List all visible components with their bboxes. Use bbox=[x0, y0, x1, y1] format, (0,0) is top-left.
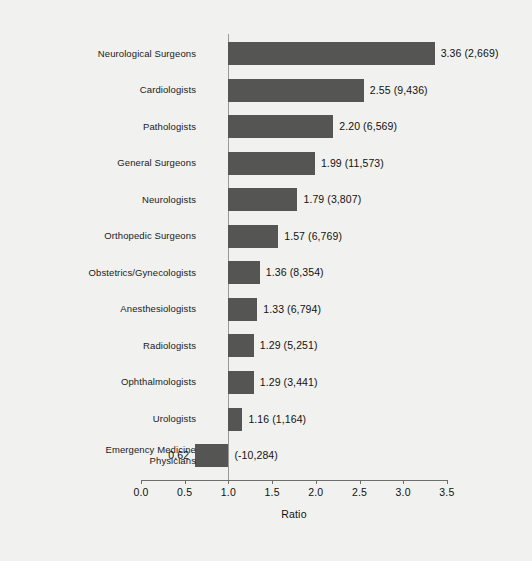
bar bbox=[228, 188, 297, 211]
x-axis-tick-label: 1.0 bbox=[208, 486, 248, 498]
category-label: Neurologists bbox=[142, 194, 196, 205]
chart-figure: Neurological SurgeonsCardiologistsPathol… bbox=[0, 0, 532, 561]
x-axis-tick-label: 0.0 bbox=[121, 486, 161, 498]
category-label: Orthopedic Surgeons bbox=[104, 230, 196, 241]
bar-value-label: 2.20 (6,569) bbox=[339, 120, 397, 132]
x-axis-tick bbox=[228, 480, 229, 484]
bar bbox=[228, 408, 242, 431]
bar-value-label: (-10,284) bbox=[234, 449, 278, 461]
x-axis-tick bbox=[272, 480, 273, 484]
x-axis-tick-label: 0.5 bbox=[165, 486, 205, 498]
x-axis-tick bbox=[360, 480, 361, 484]
x-axis-tick bbox=[403, 480, 404, 484]
bar bbox=[228, 371, 253, 394]
bar bbox=[195, 444, 228, 467]
category-label: Anesthesiologists bbox=[120, 303, 196, 314]
bar-value-label: 1.29 (3,441) bbox=[260, 376, 318, 388]
bar-value-label: 1.29 (5,251) bbox=[260, 339, 318, 351]
category-label: Pathologists bbox=[143, 121, 196, 132]
category-label: Neurological Surgeons bbox=[98, 48, 196, 59]
x-axis-tick-label: 2.0 bbox=[296, 486, 336, 498]
bar-value-label: 1.99 (11,573) bbox=[321, 157, 384, 169]
bar bbox=[228, 115, 333, 138]
bar-value-label: 2.55 (9,436) bbox=[370, 84, 428, 96]
bar-value-label: 1.16 (1,164) bbox=[248, 413, 306, 425]
bar-value-label: 1.33 (6,794) bbox=[263, 303, 321, 315]
bar-value-label-left: 0.62 bbox=[161, 449, 189, 461]
category-label: Ophthalmologists bbox=[121, 376, 196, 387]
bar bbox=[228, 152, 315, 175]
x-axis-tick bbox=[185, 480, 186, 484]
category-label: Radiologists bbox=[143, 340, 196, 351]
category-label: General Surgeons bbox=[117, 157, 196, 168]
x-axis-tick-label: 3.0 bbox=[383, 486, 423, 498]
bar bbox=[228, 261, 259, 284]
bar bbox=[228, 298, 257, 321]
x-axis-line bbox=[141, 480, 447, 481]
bar-value-label: 3.36 (2,669) bbox=[441, 47, 499, 59]
x-axis-tick-label: 1.5 bbox=[252, 486, 292, 498]
bar-value-label: 1.57 (6,769) bbox=[284, 230, 342, 242]
x-axis-tick bbox=[141, 480, 142, 484]
x-axis-tick-label: 2.5 bbox=[340, 486, 380, 498]
bar bbox=[228, 225, 278, 248]
bar bbox=[228, 42, 434, 65]
x-axis-tick-label: 3.5 bbox=[427, 486, 467, 498]
bar bbox=[228, 79, 363, 102]
x-axis-label: Ratio bbox=[234, 508, 354, 520]
category-label: Cardiologists bbox=[140, 84, 196, 95]
bar-value-label: 1.36 (8,354) bbox=[266, 266, 324, 278]
category-label: Urologists bbox=[153, 413, 196, 424]
category-label: Obstetrics/Gynecologists bbox=[89, 267, 196, 278]
bar-value-label: 1.79 (3,807) bbox=[303, 193, 361, 205]
bar bbox=[228, 334, 253, 357]
x-axis-tick bbox=[316, 480, 317, 484]
x-axis-tick bbox=[447, 480, 448, 484]
plot-area: Neurological SurgeonsCardiologistsPathol… bbox=[0, 0, 532, 561]
